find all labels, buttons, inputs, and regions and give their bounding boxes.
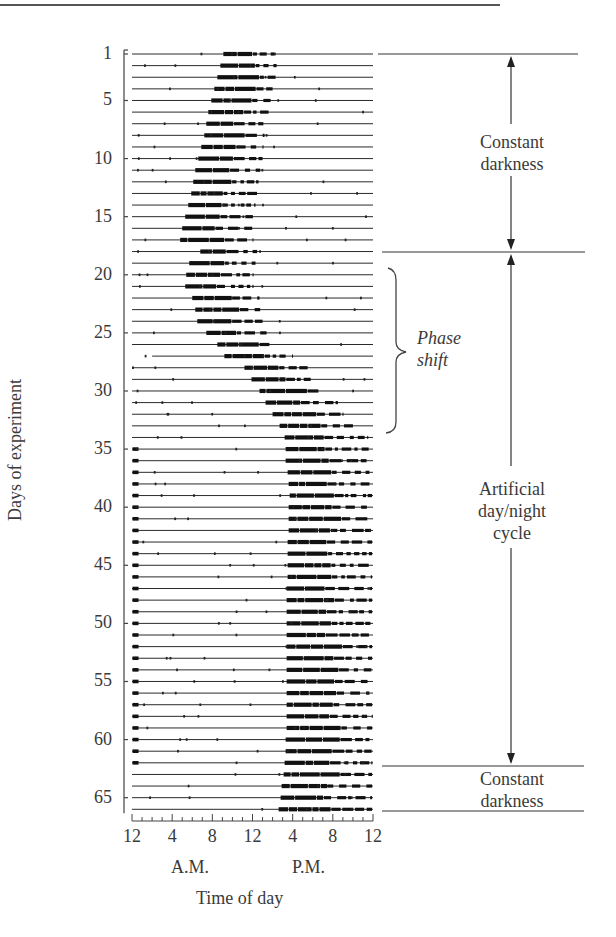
am-label: A.M. — [171, 857, 209, 878]
x-axis-label: Time of day — [196, 888, 283, 909]
annotation-constant-darkness-1: Constant darkness — [462, 131, 562, 175]
x-tick-label: 8 — [318, 826, 348, 847]
x-tick-label: 12 — [117, 826, 147, 847]
annotation-text: darkness — [462, 153, 562, 175]
annotation-text: shift — [417, 349, 497, 371]
annotation-text: Artificial — [452, 478, 572, 500]
x-tick-label: 8 — [197, 826, 227, 847]
annotation-constant-darkness-2: Constant darkness — [462, 768, 562, 812]
x-tick-label: 12 — [358, 826, 388, 847]
y-tick-label: 55 — [72, 670, 112, 691]
y-tick-label: 10 — [72, 148, 112, 169]
y-tick-label: 50 — [72, 612, 112, 633]
y-tick-label: 40 — [72, 496, 112, 517]
annotation-text: Constant — [462, 768, 562, 790]
x-tick-label: 4 — [278, 826, 308, 847]
annotation-text: Phase — [417, 327, 497, 349]
y-tick-label: 60 — [72, 729, 112, 750]
y-tick-label: 65 — [72, 787, 112, 808]
y-tick-label: 20 — [72, 264, 112, 285]
pm-label: P.M. — [292, 857, 325, 878]
x-tick-label: 4 — [157, 826, 187, 847]
y-tick-label: 1 — [72, 43, 112, 64]
y-tick-label: 15 — [72, 206, 112, 227]
annotation-text: cycle — [452, 522, 572, 544]
y-tick-label: 5 — [72, 89, 112, 110]
annotation-artificial-cycle: Artificial day/night cycle — [452, 478, 572, 544]
y-tick-label: 30 — [72, 380, 112, 401]
annotation-text: Constant — [462, 131, 562, 153]
x-tick-label: 12 — [238, 826, 268, 847]
y-tick-label: 35 — [72, 438, 112, 459]
annotation-text: darkness — [462, 790, 562, 812]
y-tick-label: 25 — [72, 322, 112, 343]
annotation-phase-shift: Phase shift — [417, 327, 497, 371]
annotation-text: day/night — [452, 500, 572, 522]
y-axis-label: Days of experiment — [5, 379, 26, 521]
y-tick-label: 45 — [72, 554, 112, 575]
